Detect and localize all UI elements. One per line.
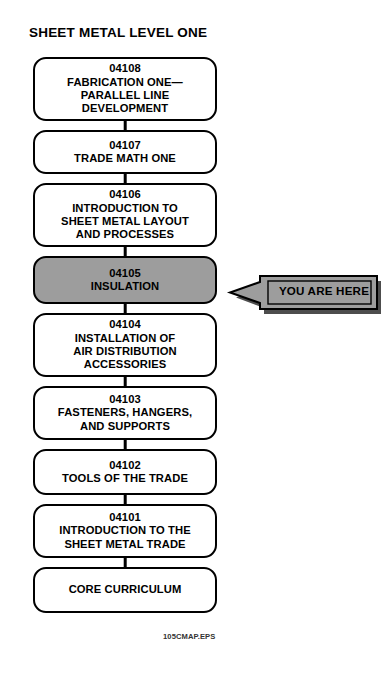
node-title-line: SHEET METAL TRADE	[64, 538, 185, 551]
flow-node-04104: 04104INSTALLATION OFAIR DISTRIBUTIONACCE…	[33, 313, 217, 377]
course-flowchart: 04108FABRICATION ONE—PARALLEL LINEDEVELO…	[33, 57, 217, 613]
node-title-line: INSULATION	[91, 280, 160, 293]
node-title-line: CORE CURRICULUM	[69, 583, 182, 596]
node-box: 04103FASTENERS, HANGERS,AND SUPPORTS	[33, 386, 217, 440]
node-code: 04107	[109, 139, 141, 152]
node-title-line: SHEET METAL LAYOUT	[61, 215, 189, 228]
node-title-line: FABRICATION ONE—	[67, 76, 183, 89]
course-map-page: SHEET METAL LEVEL ONE 04108FABRICATION O…	[0, 0, 387, 677]
node-box: 04102TOOLS OF THE TRADE	[33, 449, 217, 495]
page-title: SHEET METAL LEVEL ONE	[29, 25, 207, 40]
node-box: 04105INSULATION	[33, 256, 217, 304]
node-box: 04108FABRICATION ONE—PARALLEL LINEDEVELO…	[33, 57, 217, 121]
node-title-line: AND SUPPORTS	[80, 420, 170, 433]
flow-connector	[33, 558, 217, 567]
node-title-line: AND PROCESSES	[76, 228, 174, 241]
flow-node-04106: 04106INTRODUCTION TOSHEET METAL LAYOUTAN…	[33, 183, 217, 247]
node-code: 04102	[109, 459, 141, 472]
node-code: 04106	[109, 188, 141, 201]
node-title-line: INSTALLATION OF	[75, 332, 176, 345]
callout-arrow-icon	[222, 271, 382, 317]
flow-connector	[33, 377, 217, 386]
node-code: 04103	[109, 393, 141, 406]
flow-node-04102: 04102TOOLS OF THE TRADE	[33, 449, 217, 495]
flow-node-core-curriculum: CORE CURRICULUM	[33, 567, 217, 613]
node-box: 04104INSTALLATION OFAIR DISTRIBUTIONACCE…	[33, 313, 217, 377]
node-title-line: AIR DISTRIBUTION	[73, 345, 177, 358]
node-box: 04106INTRODUCTION TOSHEET METAL LAYOUTAN…	[33, 183, 217, 247]
node-title-line: TRADE MATH ONE	[74, 152, 176, 165]
figure-reference-code: 105CMAP.EPS	[163, 632, 215, 641]
flow-connector	[33, 440, 217, 449]
node-title-line: INTRODUCTION TO THE	[59, 524, 191, 537]
node-code: 04104	[109, 318, 141, 331]
flow-connector	[33, 247, 217, 256]
node-title-line: TOOLS OF THE TRADE	[62, 472, 188, 485]
flow-connector	[33, 304, 217, 313]
node-title-line: PARALLEL LINE	[81, 89, 170, 102]
node-code: 04101	[109, 511, 141, 524]
flow-node-04101: 04101INTRODUCTION TO THESHEET METAL TRAD…	[33, 504, 217, 558]
node-code: 04105	[109, 267, 141, 280]
flow-node-04103: 04103FASTENERS, HANGERS,AND SUPPORTS	[33, 386, 217, 440]
flow-connector	[33, 121, 217, 130]
you-are-here-callout: YOU ARE HERE	[222, 271, 382, 317]
flow-node-04105: 04105INSULATION	[33, 256, 217, 304]
flow-node-04108: 04108FABRICATION ONE—PARALLEL LINEDEVELO…	[33, 57, 217, 121]
node-box: 04107TRADE MATH ONE	[33, 130, 217, 174]
node-box: CORE CURRICULUM	[33, 567, 217, 613]
node-box: 04101INTRODUCTION TO THESHEET METAL TRAD…	[33, 504, 217, 558]
node-title-line: FASTENERS, HANGERS,	[58, 406, 192, 419]
flow-connector	[33, 495, 217, 504]
node-title-line: ACCESSORIES	[84, 358, 167, 371]
node-title-line: DEVELOPMENT	[82, 102, 168, 115]
flow-connector	[33, 174, 217, 183]
node-title-line: INTRODUCTION TO	[72, 202, 178, 215]
flow-node-04107: 04107TRADE MATH ONE	[33, 130, 217, 174]
node-code: 04108	[109, 62, 141, 75]
